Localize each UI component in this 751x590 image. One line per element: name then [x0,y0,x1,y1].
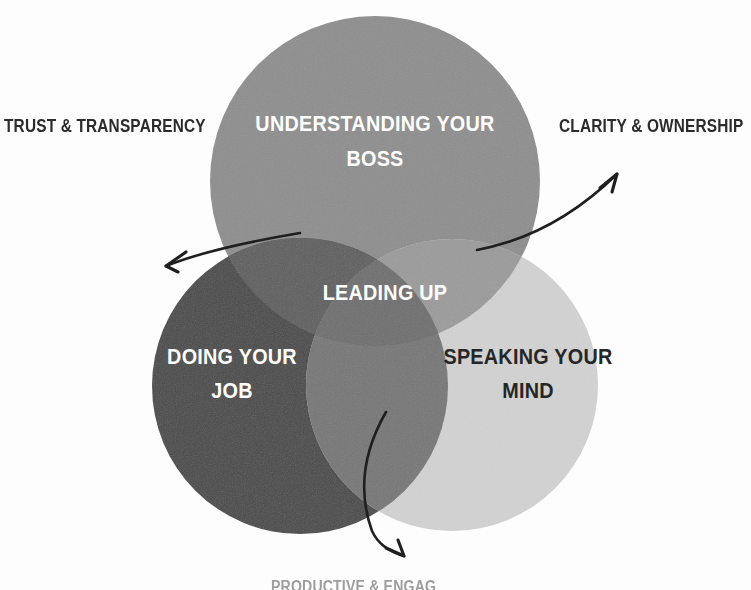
circle-label-line2: JOB [211,378,252,402]
external-label-bottom-cropped: PRODUCTIVE & ENGAG [271,578,436,590]
circle-label-line2: MIND [502,378,554,402]
external-label-trust-transparency: TRUST & TRANSPARENCY [4,116,206,137]
circle-label-line1: SPEAKING YOUR [443,344,612,368]
venn-diagram-svg: UNDERSTANDING YOUR BOSS DOING YOUR JOB S… [0,0,751,590]
circle-label-line1: UNDERSTANDING YOUR [255,111,494,135]
circle-label-line2: BOSS [346,146,403,170]
external-label-clarity-ownership: CLARITY & OWNERSHIP [559,116,743,137]
center-label-leading-up: LEADING UP [323,280,448,304]
circle-label-line1: DOING YOUR [167,344,297,368]
venn-diagram-canvas: UNDERSTANDING YOUR BOSS DOING YOUR JOB S… [0,0,751,590]
